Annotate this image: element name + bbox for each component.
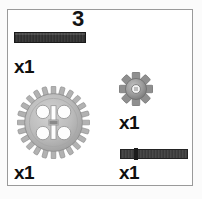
instruction-step-image: 3 x1	[0, 0, 202, 199]
quantity-label-axle: x1	[119, 163, 139, 182]
axle-body	[120, 149, 188, 159]
step-number: 3	[60, 8, 96, 30]
quantity-label-gear-large: x1	[14, 163, 34, 182]
quantity-label-gear-small: x1	[119, 113, 139, 132]
beam-highlight	[15, 33, 85, 35]
beam-icon	[14, 32, 86, 43]
gear-large-icon	[17, 86, 90, 159]
axle-stop-nub	[134, 148, 138, 160]
axle-icon	[120, 148, 188, 160]
quantity-label-beam: x1	[14, 57, 34, 76]
gear-small-icon	[119, 72, 153, 106]
